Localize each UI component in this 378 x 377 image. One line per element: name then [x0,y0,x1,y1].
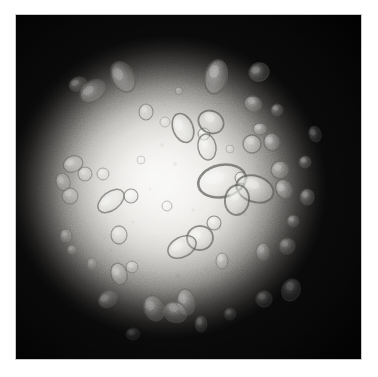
micrograph-image [15,14,362,360]
sensor-grain [15,14,362,360]
grain-svg [15,14,362,360]
page-canvas [0,0,378,377]
